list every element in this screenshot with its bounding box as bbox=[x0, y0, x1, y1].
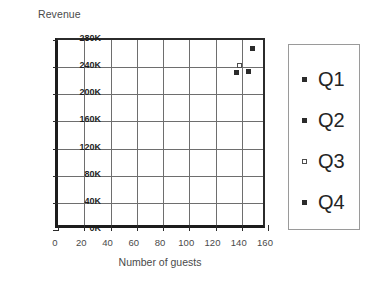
legend-item-q1[interactable]: Q1 bbox=[289, 59, 359, 99]
grid-line-vertical bbox=[242, 40, 243, 225]
data-point-q3 bbox=[237, 63, 242, 68]
legend-item-q4[interactable]: Q4 bbox=[289, 182, 359, 222]
chart-legend: Q1Q2Q3Q4 bbox=[288, 44, 360, 230]
data-point-q1 bbox=[250, 46, 255, 51]
y-axis-title: Revenue bbox=[38, 8, 81, 20]
legend-marker-icon bbox=[302, 159, 307, 164]
grid-line-vertical bbox=[111, 40, 112, 225]
x-axis-tick bbox=[163, 225, 164, 231]
legend-marker-icon bbox=[302, 118, 307, 123]
y-axis-tick-label: 80K bbox=[55, 169, 101, 179]
x-axis-tick bbox=[189, 225, 190, 231]
legend-marker-icon bbox=[302, 77, 307, 82]
x-axis-title: Number of guests bbox=[55, 256, 265, 268]
grid-line-vertical bbox=[163, 40, 164, 225]
y-axis-tick-label: 240K bbox=[55, 60, 101, 70]
legend-item-label: Q4 bbox=[318, 192, 345, 212]
x-axis-tick bbox=[216, 225, 217, 231]
grid-line-vertical bbox=[137, 40, 138, 225]
y-axis-tick-label: 280K bbox=[55, 33, 101, 43]
y-axis-tick-label: 40K bbox=[55, 196, 101, 206]
y-axis-tick-label: 0K bbox=[55, 223, 101, 233]
x-axis-tick bbox=[137, 225, 138, 231]
legend-item-label: Q1 bbox=[318, 69, 345, 89]
legend-item-q3[interactable]: Q3 bbox=[289, 141, 359, 181]
y-axis-tick-label: 160K bbox=[55, 114, 101, 124]
legend-item-label: Q2 bbox=[318, 110, 345, 130]
data-point-q2 bbox=[246, 69, 251, 74]
y-axis-tick-label: 200K bbox=[55, 87, 101, 97]
data-point-q4 bbox=[234, 70, 239, 75]
x-axis-tick bbox=[268, 225, 269, 231]
legend-item-label: Q3 bbox=[318, 151, 345, 171]
x-axis-tick bbox=[111, 225, 112, 231]
x-axis-tick-label: 160 bbox=[245, 237, 285, 248]
scatter-chart: Revenue Number of guests Q1Q2Q3Q4 0K40K8… bbox=[0, 0, 371, 282]
legend-item-q2[interactable]: Q2 bbox=[289, 100, 359, 140]
grid-line-vertical bbox=[216, 40, 217, 225]
legend-marker-icon bbox=[302, 200, 307, 205]
grid-line-vertical bbox=[189, 40, 190, 225]
x-axis-tick bbox=[242, 225, 243, 231]
y-axis-tick-label: 120K bbox=[55, 142, 101, 152]
